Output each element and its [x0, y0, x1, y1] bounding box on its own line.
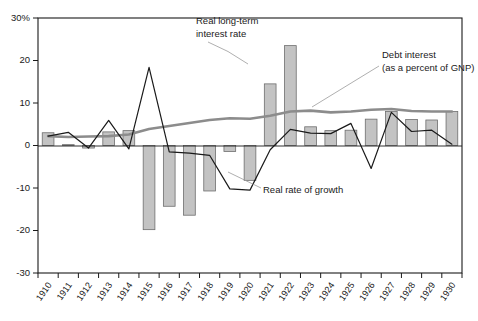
y-axis-tick-label: -30 — [16, 267, 30, 278]
x-axis-tick-label: 1913 — [95, 280, 115, 302]
x-axis-tick-label: 1912 — [74, 280, 94, 302]
bar — [143, 146, 155, 230]
x-axis-tick-label: 1911 — [55, 280, 74, 302]
x-axis-tick-label: 1924 — [317, 280, 337, 302]
x-axis-tick-label: 1928 — [397, 280, 417, 302]
x-axis-tick-label: 1922 — [276, 280, 296, 302]
annot-debt-interest-line1: Debt interest — [382, 49, 436, 60]
x-axis-tick-label: 1919 — [216, 280, 236, 302]
y-axis-tick-label: 20 — [19, 54, 30, 65]
chart-canvas: 30%20100-10-20-30 1910191119121913191419… — [0, 0, 478, 321]
chart-container: 30%20100-10-20-30 1910191119121913191419… — [0, 0, 478, 321]
annot-interest-rate-line2: interest rate — [196, 28, 246, 39]
x-axis-tick-label: 1930 — [438, 280, 458, 302]
bar — [325, 131, 337, 146]
bar — [406, 120, 418, 146]
annot-interest-rate-line1: Real long-term — [196, 15, 258, 26]
bar — [446, 112, 458, 146]
bar — [42, 133, 54, 146]
x-axis-tick-label: 1927 — [377, 280, 397, 302]
y-axis: 30%20100-10-20-30 — [11, 12, 38, 278]
x-axis-tick-label: 1929 — [418, 280, 438, 302]
x-axis-tick-label: 1926 — [357, 280, 377, 302]
bar — [163, 146, 175, 207]
x-axis-tick-label: 1921 — [256, 280, 276, 302]
bar — [365, 119, 377, 145]
x-axis-tick-label: 1920 — [236, 280, 256, 302]
x-axis-tick-label: 1915 — [135, 280, 155, 302]
bar — [244, 146, 256, 181]
bar — [103, 132, 115, 146]
bar — [305, 127, 317, 146]
y-axis-tick-label: 0 — [25, 139, 30, 150]
x-axis-tick-label: 1914 — [115, 280, 135, 302]
annot-debt-interest-line2: (as a percent of GNP) — [382, 62, 474, 73]
y-axis-tick-label: -10 — [16, 182, 30, 193]
bar — [184, 146, 196, 216]
annot-growth-label: Real rate of growth — [263, 184, 343, 195]
bar — [204, 146, 216, 191]
x-axis-tick-label: 1925 — [337, 280, 357, 302]
x-axis-tick-label: 1923 — [297, 280, 317, 302]
x-axis-tick-label: 1910 — [34, 280, 54, 302]
x-axis-tick-label: 1918 — [196, 280, 216, 302]
y-axis-tick-label: 30% — [11, 12, 31, 23]
y-axis-tick-label: 10 — [19, 97, 30, 108]
y-axis-tick-label: -20 — [16, 224, 30, 235]
bar — [62, 145, 74, 146]
x-axis-tick-label: 1917 — [175, 280, 195, 302]
x-axis: 1910191119121913191419151916191719181919… — [34, 273, 462, 303]
x-axis-tick-label: 1916 — [155, 280, 175, 302]
